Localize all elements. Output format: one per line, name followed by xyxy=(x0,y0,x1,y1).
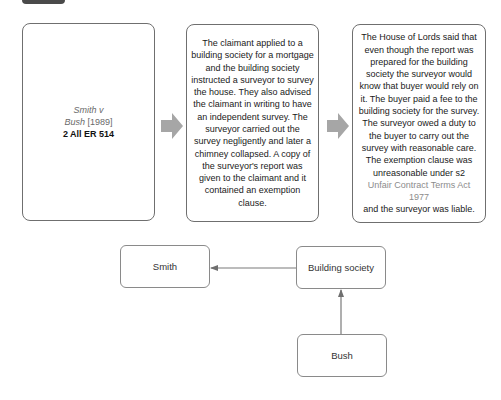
relationship-links xyxy=(0,0,501,400)
node-label: Building society xyxy=(308,262,374,273)
node-label: Bush xyxy=(331,350,353,361)
node-smith: Smith xyxy=(120,245,210,288)
node-building-society: Building society xyxy=(296,246,386,289)
node-bush: Bush xyxy=(297,334,387,377)
node-label: Smith xyxy=(153,261,177,272)
